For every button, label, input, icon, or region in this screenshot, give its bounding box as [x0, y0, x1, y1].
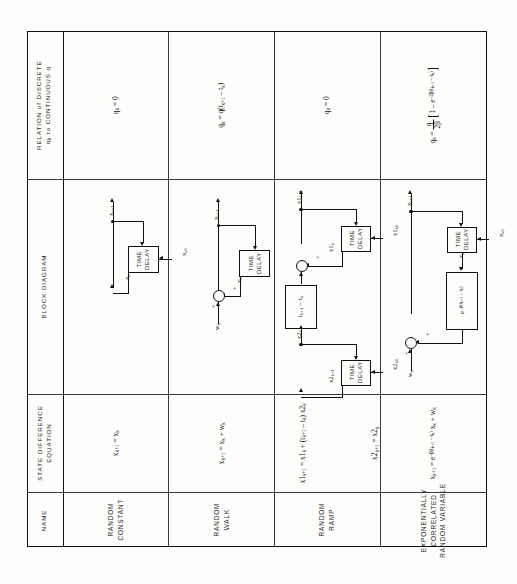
diagram-cell-random-ramp: x1k+1 TIMEDELAY x1k0 x1k	[275, 180, 380, 395]
model-column-exponentially-correlated: qk = q2β [1 – e–2β(tk+1 – tk)] xk+1	[381, 32, 486, 546]
exponential-gain-block: e–β(tk+1 – tk)	[446, 272, 478, 330]
relation-cell-random-ramp: qk = 0	[275, 32, 380, 180]
exponential-gain-label: e–β(tk+1 – tk)	[458, 287, 466, 315]
gain-out-arrow-icon	[299, 272, 303, 276]
sign-plus-1: +	[314, 255, 321, 259]
output-arrow-icon	[110, 198, 114, 202]
summing-junction	[213, 290, 225, 302]
model-column-random-ramp: qk = 0 x1k+1 TIMEDELAY	[275, 32, 381, 546]
state-equation-1: xk+1 = xk	[112, 430, 121, 456]
relation-formula: qk = q2β [1 – e–2β(tk+1 – tk)]	[425, 67, 442, 144]
row-header-state-equation: STATE DIFFERENCE EQUATION	[28, 395, 63, 493]
lower-time-delay-block: TIMEDELAY	[341, 360, 371, 386]
lower-init-arrow-icon	[371, 370, 375, 374]
upper-feedback-line	[301, 209, 357, 210]
state-equation-1: x1k+1 = x1k + (tk+1 – tk) x2k	[298, 403, 307, 483]
init-arrow-icon	[159, 256, 163, 260]
relation-cell-random-constant: qk = 0	[64, 32, 169, 180]
equation-cell-random-walk: xk+1 = xk + wk	[169, 395, 274, 493]
upper-delay-out-line	[342, 252, 343, 267]
row-header-name-label: NAME	[41, 509, 48, 531]
name-cell-random-ramp: RANDOM RAMP	[275, 493, 380, 548]
model-column-random-constant: qk = 0 xk+1 TIMEDELAY	[64, 32, 170, 546]
time-delay-label: TIMEDELAY	[247, 252, 263, 274]
block-diagram-random-walk: xk+1 TIMEDELAY xk +	[169, 180, 274, 394]
time-delay-block: TIMEDELAY	[128, 246, 159, 273]
delay-output-label: xk	[457, 252, 465, 258]
page-canvas: RELATION of DISCRETE qk to CONTINUOUS q …	[0, 0, 517, 584]
output-label: x1k+1	[295, 190, 303, 204]
model-name-line2: RAMP	[328, 509, 335, 531]
models-table: RELATION of DISCRETE qk to CONTINUOUS q …	[27, 31, 487, 547]
model-name-line1: RANDOM	[107, 503, 114, 537]
block-diagram-random-constant: xk+1 TIMEDELAY xk0 xk	[64, 180, 169, 394]
diagram-cell-random-constant: xk+1 TIMEDELAY xk0 xk	[64, 180, 169, 395]
noise-label: wk	[213, 323, 221, 330]
equation-cell-random-constant: xk+1 = xk	[64, 395, 169, 493]
sign-plus-1: +	[424, 332, 431, 336]
model-name-line1: EXPONENTIALLY	[420, 488, 427, 552]
upper-init-arrow-icon	[371, 236, 375, 240]
state-equation-1: xk+1 = e–β(tk+1 – tk) xk + wk	[429, 407, 438, 479]
upper-delay-return-line	[308, 266, 342, 267]
time-delay-label: TIMEDELAY	[135, 248, 151, 270]
delay-output-label: xk	[123, 274, 131, 280]
time-delay-block: TIMEDELAY	[447, 227, 477, 253]
row-header-block-diagram-label: BLOCK DIAGRAM	[41, 255, 48, 319]
upper-time-delay-label: TIMEDELAY	[348, 228, 364, 250]
state-equation-2: x2k+1 = x2k	[371, 426, 380, 459]
init-arrow-icon	[477, 237, 481, 241]
row-header-block-diagram: BLOCK DIAGRAM	[28, 180, 63, 395]
row-header-column: RELATION of DISCRETE qk to CONTINUOUS q …	[28, 32, 64, 546]
lower-feedback-line	[301, 344, 357, 345]
ramp-gain-label: tk+1 – tk	[297, 296, 304, 317]
summing-junction	[296, 260, 308, 272]
name-cell-random-walk: RANDOM WALK	[169, 493, 274, 548]
gain-return-line	[418, 343, 463, 344]
sign-plus-2: +	[403, 351, 410, 355]
gain-output-line	[462, 330, 463, 344]
name-cell-random-constant: RANDOM CONSTANT	[64, 493, 169, 548]
output-label: xk+1	[405, 195, 413, 205]
feedback-top-line	[411, 211, 463, 212]
relation-cell-random-walk: qk = q(tk+1 – tk)	[169, 32, 274, 180]
row-header-relation-line1: RELATION of DISCRETE	[36, 60, 43, 149]
row-header-name: NAME	[28, 493, 63, 548]
delay-output-label: xk	[235, 277, 243, 283]
time-delay-label: TIMEDELAY	[454, 229, 470, 251]
return-arrow-icon	[110, 284, 114, 288]
gain-input-arrow-icon	[459, 267, 463, 271]
diagram-cell-random-walk: xk+1 TIMEDELAY xk +	[169, 180, 274, 395]
lower-time-delay-label: TIMEDELAY	[348, 362, 364, 384]
lower-return-arrow-icon	[299, 388, 303, 392]
feedback-top-line	[113, 221, 144, 222]
output-label: xk+1	[212, 209, 220, 219]
mid-label: x2k	[295, 330, 303, 339]
model-name-line3: RANDOM VARIABLE	[439, 483, 446, 557]
output-arrow-icon	[216, 198, 220, 202]
delay-return-line	[113, 293, 129, 294]
relation-formula: qk = q(tk+1 – tk)	[217, 82, 226, 127]
init-label: xk0	[497, 229, 505, 237]
equation-cell-random-ramp: x1k+1 = x1k + (tk+1 – tk) x2k x2k+1 = x2…	[275, 395, 380, 493]
upper-feedback-label: x1k	[327, 243, 335, 252]
model-name-line2: WALK	[223, 509, 230, 530]
relation-formula: qk = 0	[112, 96, 121, 114]
output-label: xk+1	[107, 205, 115, 215]
delay-return-line	[225, 296, 240, 297]
row-header-state-equation-line2: EQUATION	[45, 423, 52, 462]
relation-formula: qk = 0	[323, 96, 332, 114]
summing-junction	[405, 337, 417, 349]
equation-cell-exponentially-correlated: xk+1 = e–β(tk+1 – tk) xk + wk	[381, 395, 486, 493]
time-delay-block: TIMEDELAY	[239, 250, 270, 277]
model-name-line2: CORRELATED	[429, 494, 436, 546]
row-header-relation: RELATION of DISCRETE qk to CONTINUOUS q	[28, 32, 63, 180]
block-diagram-exponentially-correlated: xk+1 TIMEDELAY xk0 xk	[381, 180, 486, 394]
row-header-relation-line2: qk to CONTINUOUS q	[45, 66, 52, 144]
gain-in-arrow-icon	[299, 325, 303, 329]
model-name-line1: RANDOM	[213, 503, 220, 537]
output-arrow-icon	[408, 190, 412, 194]
rotated-table-wrapper: RELATION of DISCRETE qk to CONTINUOUS q …	[0, 31, 516, 486]
name-cell-exponentially-correlated: EXPONENTIALLY CORRELATED RANDOM VARIABLE	[381, 493, 486, 548]
feedback-right-line	[143, 221, 144, 243]
